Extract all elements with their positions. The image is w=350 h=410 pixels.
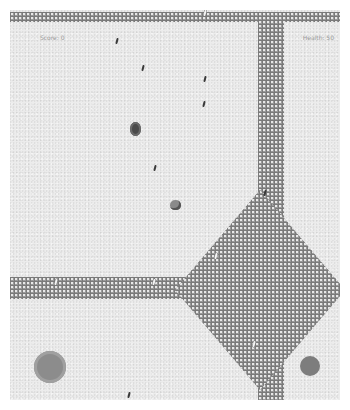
bullet — [127, 392, 130, 398]
bullet — [153, 165, 156, 171]
player-character — [130, 122, 141, 136]
health-label: Health: 50 — [303, 34, 334, 41]
bullet — [203, 76, 206, 82]
bullet — [115, 38, 118, 44]
top-wall — [10, 12, 340, 22]
fire-button[interactable] — [300, 356, 320, 376]
enemy-character — [170, 200, 181, 210]
game-canvas[interactable]: Score: 0 Health: 50 — [10, 10, 340, 400]
score-label: Score: 0 — [40, 34, 65, 41]
bullet — [202, 101, 205, 107]
virtual-joystick[interactable] — [34, 351, 66, 383]
bullet — [141, 65, 144, 71]
